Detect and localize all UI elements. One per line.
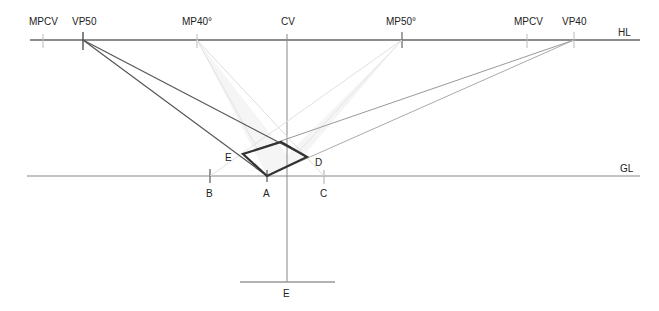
label-hl: HL — [618, 27, 631, 38]
vp40-line-a — [243, 40, 574, 154]
label-mp40: MP40° — [182, 16, 212, 27]
label-mpcv-left: MPCV — [29, 16, 58, 27]
label-e-corner: E — [225, 152, 232, 163]
label-mp50: MP50° — [386, 16, 416, 27]
vp40-line-b — [267, 40, 574, 176]
label-vp50: VP50 — [72, 16, 97, 27]
label-c: C — [320, 188, 327, 199]
label-station-e: E — [283, 288, 290, 299]
label-d-corner: D — [315, 157, 322, 168]
diagram-svg: MPCV VP50 MP40° CV MP50° MPCV VP40 HL GL… — [0, 0, 659, 311]
measure-line-mp50-b — [300, 40, 402, 150]
label-vp40: VP40 — [562, 16, 587, 27]
label-b: B — [206, 188, 213, 199]
perspective-diagram: MPCV VP50 MP40° CV MP50° MPCV VP40 HL GL… — [0, 0, 659, 311]
label-cv: CV — [281, 16, 295, 27]
label-mpcv-right: MPCV — [514, 16, 543, 27]
label-a: A — [263, 188, 270, 199]
vp50-line-b — [83, 40, 307, 157]
label-gl: GL — [620, 163, 634, 174]
